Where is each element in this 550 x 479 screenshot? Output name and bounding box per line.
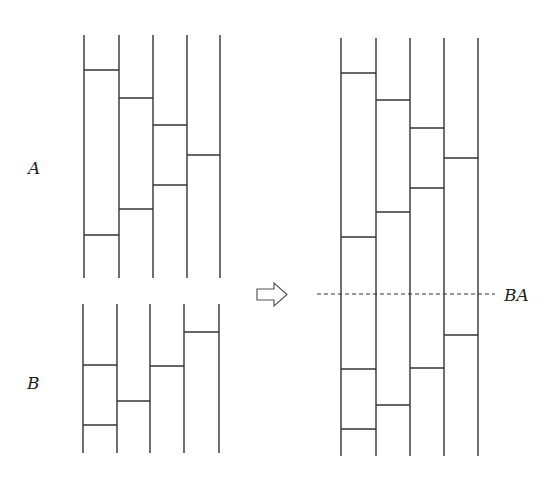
diagram-canvas: A B BA: [0, 0, 550, 479]
ladder-b: [83, 304, 219, 453]
ladder-ba: [341, 38, 478, 456]
right-arrow-icon: [257, 283, 287, 306]
label-b: B: [26, 373, 40, 393]
ladder-a: [84, 35, 220, 278]
label-a: A: [26, 158, 40, 178]
label-ba: BA: [503, 285, 529, 305]
